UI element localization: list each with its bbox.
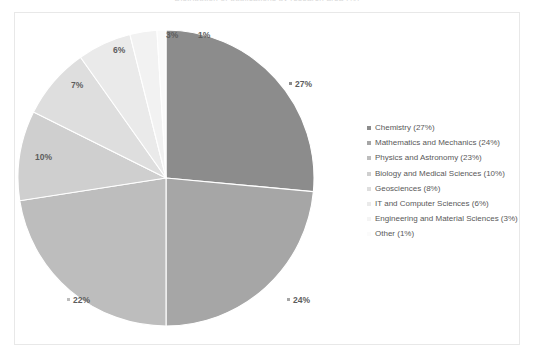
data-label-value-biology: 10% xyxy=(35,152,52,162)
data-label-marker-biology xyxy=(29,155,32,158)
legend-label-6: Engineering and Material Sciences (3%) xyxy=(375,214,519,224)
data-label-other: 1% xyxy=(198,30,210,40)
legend-item-0[interactable]: Chemistry (27%) xyxy=(367,123,519,133)
pie-chart xyxy=(16,23,316,333)
legend-item-6[interactable]: Engineering and Material Sciences (3%) xyxy=(367,214,519,224)
data-label-marker-physics xyxy=(67,298,70,301)
data-label-marker-chemistry xyxy=(289,82,292,85)
legend-label-1: Mathematics and Mechanics (24%) xyxy=(375,138,519,148)
data-label-biology: 10% xyxy=(29,152,52,162)
chart-frame: 27% 24% 22% 10% 7% 6% 3% 1% Chemistry (2… xyxy=(14,12,520,345)
legend-item-3[interactable]: Biology and Medical Sciences (10%) xyxy=(367,169,519,179)
data-label-geosciences: 7% xyxy=(65,80,83,90)
legend-item-4[interactable]: Geosciences (8%) xyxy=(367,184,519,194)
data-label-marker-geosciences xyxy=(65,83,68,86)
legend-swatch-icon-3 xyxy=(367,172,371,176)
legend-label-2: Physics and Astronomy (23%) xyxy=(375,153,519,163)
plot-area: 27% 24% 22% 10% 7% 6% 3% 1% Chemistry (2… xyxy=(15,13,521,346)
data-label-value-geosciences: 7% xyxy=(71,80,83,90)
data-label-value-chemistry: 27% xyxy=(295,79,312,89)
page-title: Distribution of publications by research… xyxy=(0,0,534,1)
data-label-value-engineering: 3% xyxy=(166,30,178,40)
legend-swatch-icon-7 xyxy=(367,232,371,236)
data-label-engineering: 3% xyxy=(166,30,178,40)
legend-item-1[interactable]: Mathematics and Mechanics (24%) xyxy=(367,138,519,148)
legend-item-2[interactable]: Physics and Astronomy (23%) xyxy=(367,153,519,163)
data-label-value-mathematics: 24% xyxy=(293,295,310,305)
data-label-it-computer-sciences: 6% xyxy=(113,45,125,55)
data-label-marker-mathematics xyxy=(287,298,290,301)
legend-label-0: Chemistry (27%) xyxy=(375,123,519,133)
legend-item-5[interactable]: IT and Computer Sciences (6%) xyxy=(367,199,519,209)
data-label-physics: 22% xyxy=(67,295,90,305)
legend-swatch-icon-6 xyxy=(367,217,371,221)
data-label-chemistry: 27% xyxy=(289,79,312,89)
legend-label-5: IT and Computer Sciences (6%) xyxy=(375,199,519,209)
data-label-value-physics: 22% xyxy=(73,295,90,305)
legend-label-4: Geosciences (8%) xyxy=(375,184,519,194)
legend-label-3: Biology and Medical Sciences (10%) xyxy=(375,169,519,179)
chart-legend: Chemistry (27%)Mathematics and Mechanics… xyxy=(367,123,519,245)
legend-swatch-icon-4 xyxy=(367,187,371,191)
legend-swatch-icon-5 xyxy=(367,202,371,206)
pie-slice-chemistry[interactable] xyxy=(166,30,314,192)
pie-slices xyxy=(18,30,314,326)
legend-swatch-icon-0 xyxy=(367,126,371,130)
legend-swatch-icon-2 xyxy=(367,156,371,160)
legend-label-7: Other (1%) xyxy=(375,229,519,239)
data-label-mathematics: 24% xyxy=(287,295,310,305)
legend-item-7[interactable]: Other (1%) xyxy=(367,229,519,239)
data-label-value-other: 1% xyxy=(198,30,210,40)
data-label-value-it: 6% xyxy=(113,45,125,55)
pie-slice-physics-and-astronomy[interactable] xyxy=(20,178,166,326)
legend-swatch-icon-1 xyxy=(367,141,371,145)
